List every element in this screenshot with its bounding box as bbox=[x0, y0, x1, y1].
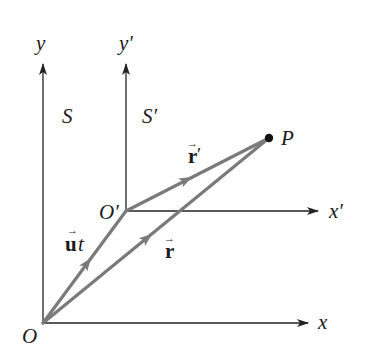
origin-o-prime-label: O′ bbox=[99, 200, 119, 224]
x-prime-axis-label: x′ bbox=[328, 199, 343, 223]
x-axis-label: x bbox=[317, 310, 328, 334]
frame-s-axes bbox=[43, 64, 308, 323]
arrowhead-r-prime-icon bbox=[178, 173, 194, 188]
origin-o-label: O bbox=[22, 324, 37, 348]
frame-s-label: S bbox=[62, 104, 73, 128]
point-p-dot bbox=[265, 134, 273, 142]
diagram-canvas: y y′ x x′ S S′ O O′ P → u t → r → r ′ bbox=[0, 0, 372, 363]
ut-t: t bbox=[78, 232, 85, 256]
vector-ut-label: → u t bbox=[65, 224, 85, 256]
frame-s-prime-label: S′ bbox=[142, 104, 158, 128]
vector-r-label: → r bbox=[164, 232, 175, 263]
vector-arrowheads bbox=[79, 173, 194, 272]
r-bold: r bbox=[165, 239, 174, 263]
r-prime-bold: r bbox=[188, 144, 197, 168]
diagram-svg: y y′ x x′ S S′ O O′ P → u t → r → r ′ bbox=[0, 0, 372, 363]
y-prime-axis-label: y′ bbox=[117, 31, 133, 55]
y-axis-label: y bbox=[34, 31, 46, 55]
r-prime-mark: ′ bbox=[197, 144, 201, 165]
point-p-label: P bbox=[280, 126, 294, 150]
vector-r-prime-label: → r ′ bbox=[187, 137, 201, 168]
ut-bold-u: u bbox=[65, 232, 77, 256]
